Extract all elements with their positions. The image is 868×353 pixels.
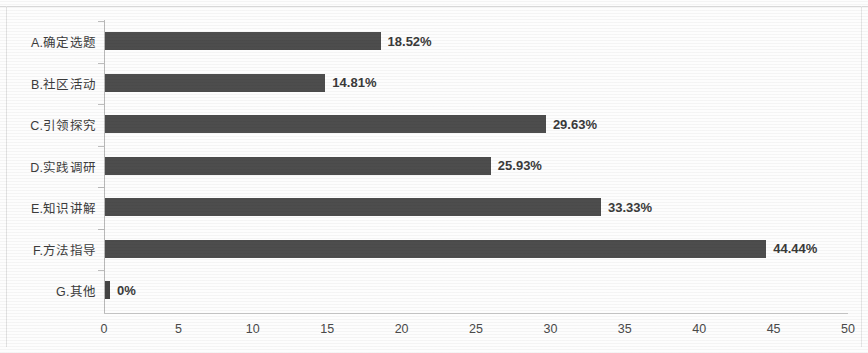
bar-value-label: 0% (117, 283, 136, 298)
bar-value-label: 44.44% (773, 241, 817, 256)
bar-value-label: 33.33% (608, 200, 652, 215)
bar-container: 29.63% (105, 115, 597, 133)
bar-container: 18.52% (105, 32, 432, 50)
category-label: C.引领探究 (30, 115, 96, 134)
category-label: E.知识讲解 (31, 198, 96, 217)
category-label: G.其他 (56, 281, 96, 300)
bar[interactable] (105, 157, 491, 175)
x-axis-tick-label: 45 (767, 322, 781, 336)
bar-container: 0% (105, 281, 136, 299)
value-axis-line (104, 313, 848, 314)
bar-value-label: 14.81% (332, 75, 376, 90)
bar-value-label: 25.93% (498, 158, 542, 173)
bar-row: A.确定选题18.52% (0, 20, 868, 62)
x-axis-tick-label: 10 (246, 322, 260, 336)
bar-container: 25.93% (105, 157, 542, 175)
bar-row: D.实践调研25.93% (0, 145, 868, 187)
bar-row: F.方法指导44.44% (0, 228, 868, 270)
x-axis-tick-label: 5 (175, 322, 182, 336)
x-axis-tick-label: 50 (841, 322, 855, 336)
category-label: F.方法指导 (33, 239, 96, 258)
category-label: B.社区活动 (31, 73, 96, 92)
bar-row: B.社区活动14.81% (0, 62, 868, 104)
bar-container: 14.81% (105, 74, 376, 92)
bar[interactable] (105, 240, 766, 258)
bar[interactable] (105, 281, 110, 299)
bar-value-label: 29.63% (553, 117, 597, 132)
x-axis-tick-label: 15 (320, 322, 334, 336)
scan-edge-top (0, 6, 868, 7)
x-axis-tick-label: 0 (101, 322, 108, 336)
x-axis-tick-label: 30 (543, 322, 557, 336)
bar-row: C.引领探究29.63% (0, 103, 868, 145)
bar-container: 44.44% (105, 240, 817, 258)
bar[interactable] (105, 32, 381, 50)
category-label: D.实践调研 (30, 156, 96, 175)
bar-container: 33.33% (105, 198, 652, 216)
bar[interactable] (105, 115, 546, 133)
x-axis-tick-label: 35 (618, 322, 632, 336)
x-axis-tick-label: 25 (469, 322, 483, 336)
bar[interactable] (105, 74, 325, 92)
bar-row: G.其他0% (0, 269, 868, 311)
bar-value-label: 18.52% (388, 34, 432, 49)
bar[interactable] (105, 198, 601, 216)
x-axis-tick-label: 20 (395, 322, 409, 336)
bar-chart: A.确定选题18.52%B.社区活动14.81%C.引领探究29.63%D.实践… (0, 0, 868, 353)
bar-row: E.知识讲解33.33% (0, 186, 868, 228)
category-label: A.确定选题 (31, 32, 96, 51)
x-axis-tick-label: 40 (692, 322, 706, 336)
